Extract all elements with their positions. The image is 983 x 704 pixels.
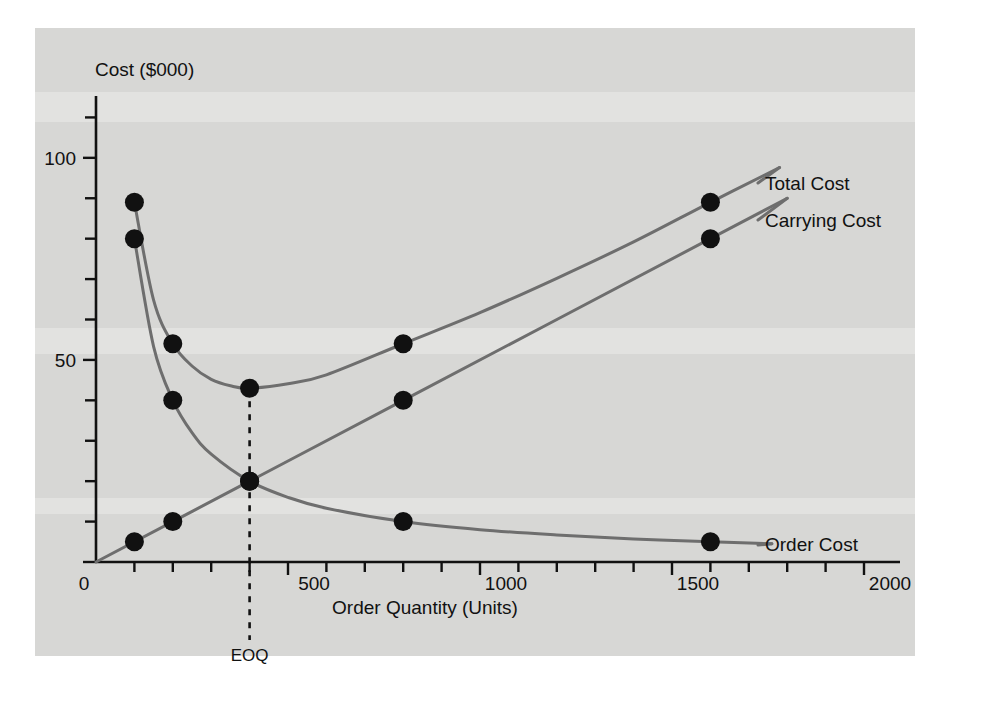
y-axis-tick-labels: 501000 — [44, 148, 89, 594]
series-label-order-cost: Order Cost — [765, 534, 859, 555]
data-point-carrying-cost — [125, 532, 144, 551]
data-point-total-cost — [240, 379, 259, 398]
data-point-carrying-cost — [701, 229, 720, 248]
x-axis-title: Order Quantity (Units) — [332, 597, 518, 618]
x-axis-tick-label: 500 — [298, 573, 330, 594]
series-curve-order-cost — [134, 239, 771, 544]
y-axis-tick-label: 50 — [55, 350, 76, 371]
data-point-order-cost — [163, 391, 182, 410]
eoq-cost-chart-figure: Cost ($000) 501000 500100015002000 Total… — [0, 0, 983, 704]
x-axis-tick-labels: 500100015002000 — [298, 573, 911, 594]
data-point-total-cost — [125, 193, 144, 212]
series-label-carrying-cost: Carrying Cost — [765, 210, 882, 231]
x-axis-tick-label: 1500 — [677, 573, 719, 594]
y-axis-title: Cost ($000) — [95, 59, 194, 80]
x-axis-tick-label: 1000 — [485, 573, 527, 594]
series-curve-total-cost — [134, 168, 779, 389]
series-curves — [96, 168, 787, 562]
data-point-total-cost — [163, 334, 182, 353]
data-point-order-cost — [394, 512, 413, 531]
series-markers — [125, 193, 720, 552]
eoq-label: EOQ — [231, 646, 269, 665]
y-axis-ticks — [83, 117, 96, 562]
data-point-order-cost — [125, 229, 144, 248]
y-axis-tick-label: 100 — [44, 148, 76, 169]
data-point-total-cost — [701, 193, 720, 212]
data-point-order-cost — [701, 532, 720, 551]
series-curve-carrying-cost — [96, 198, 787, 562]
chart-plot-area: Cost ($000) 501000 500100015002000 Total… — [0, 0, 983, 704]
data-point-order-cost — [240, 472, 259, 491]
y-axis-tick-label-zero: 0 — [79, 573, 90, 594]
x-axis-tick-label: 2000 — [869, 573, 911, 594]
series-label-total-cost: Total Cost — [765, 173, 850, 194]
data-point-total-cost — [394, 334, 413, 353]
data-point-carrying-cost — [394, 391, 413, 410]
data-point-carrying-cost — [163, 512, 182, 531]
